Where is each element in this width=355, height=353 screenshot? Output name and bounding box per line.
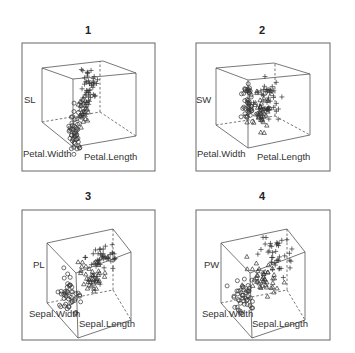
plus-marker bbox=[276, 107, 281, 112]
triangle-marker bbox=[76, 260, 80, 264]
plus-marker bbox=[258, 247, 263, 252]
plus-marker bbox=[255, 252, 260, 257]
plus-marker bbox=[102, 265, 107, 270]
plus-marker bbox=[264, 235, 269, 240]
plus-marker bbox=[284, 237, 289, 242]
plus-marker bbox=[266, 250, 271, 255]
plus-marker bbox=[80, 86, 85, 91]
circle-marker bbox=[72, 152, 76, 156]
panel-3-z-label: PL bbox=[33, 259, 45, 270]
triangle-marker bbox=[275, 286, 279, 290]
plus-marker bbox=[287, 251, 292, 256]
cube-edge bbox=[248, 74, 310, 80]
cube-hidden-edge bbox=[221, 290, 287, 303]
panel-3: PL Sepal.Width Sepal.Length bbox=[22, 210, 155, 340]
plus-marker bbox=[263, 242, 268, 247]
plus-marker bbox=[288, 265, 293, 270]
triangle-marker bbox=[80, 264, 84, 268]
panel-4-y-label: Sepal.Width bbox=[202, 308, 253, 319]
circle-marker bbox=[79, 300, 83, 304]
panel-1: SL Petal.Width Petal.Length bbox=[22, 43, 155, 171]
plus-marker bbox=[281, 275, 286, 280]
panel-2: SW Petal.Width Petal.Length bbox=[196, 43, 330, 171]
cube-edge bbox=[113, 229, 131, 252]
cube-hidden-edge bbox=[100, 112, 136, 136]
plus-marker bbox=[276, 117, 281, 122]
panel-2-y-label: Petal.Width bbox=[197, 148, 246, 159]
plus-marker bbox=[79, 67, 84, 72]
plus-marker bbox=[267, 90, 272, 95]
plus-marker bbox=[95, 77, 100, 82]
triangle-marker bbox=[81, 119, 85, 123]
plus-marker bbox=[279, 238, 284, 243]
scatter3d-grid: SL Petal.Width Petal.Length SW Petal.Wid… bbox=[0, 0, 355, 353]
triangle-marker bbox=[102, 274, 106, 278]
triangle-marker bbox=[251, 283, 255, 287]
cube-edge bbox=[42, 122, 73, 147]
cube-hidden-edge bbox=[287, 290, 305, 320]
plus-marker bbox=[274, 101, 279, 106]
panel-4: PW Sepal.Width Sepal.Length bbox=[196, 210, 330, 340]
circle-marker bbox=[66, 272, 70, 276]
cube-edge bbox=[248, 135, 310, 148]
plus-marker bbox=[269, 255, 274, 260]
plus-marker bbox=[80, 68, 85, 73]
circle-marker bbox=[62, 276, 66, 280]
triangle-marker bbox=[259, 130, 263, 134]
triangle-marker bbox=[245, 254, 249, 258]
plus-marker bbox=[110, 242, 115, 247]
plus-marker bbox=[93, 247, 98, 252]
plus-marker bbox=[273, 263, 278, 268]
panel-4-z-label: PW bbox=[204, 259, 219, 270]
plus-marker bbox=[110, 266, 115, 271]
plus-marker bbox=[91, 251, 96, 256]
plus-marker bbox=[268, 241, 273, 246]
triangle-marker bbox=[78, 107, 82, 111]
circle-marker bbox=[225, 284, 229, 288]
plus-marker bbox=[274, 80, 279, 85]
plus-marker bbox=[279, 94, 284, 99]
plus-marker bbox=[289, 246, 294, 251]
plus-marker bbox=[103, 244, 108, 249]
triangle-marker bbox=[245, 120, 249, 124]
triangle-marker bbox=[82, 282, 86, 286]
panel-1-y-label: Petal.Width bbox=[23, 148, 72, 159]
triangle-marker bbox=[282, 280, 286, 284]
cube-edge bbox=[47, 229, 113, 243]
cube-edge bbox=[42, 61, 103, 68]
plus-marker bbox=[270, 267, 275, 272]
plus-marker bbox=[274, 109, 279, 114]
cube-edge bbox=[47, 243, 76, 273]
cluster-versicolor bbox=[76, 255, 110, 293]
triangle-marker bbox=[86, 110, 90, 114]
triangle-marker bbox=[250, 267, 254, 271]
cube-edge bbox=[103, 61, 136, 73]
panel-4-x-label: Sepal.Length bbox=[252, 318, 308, 329]
cube-edge bbox=[274, 63, 310, 74]
cube-edge bbox=[287, 229, 305, 252]
plus-marker bbox=[83, 255, 88, 260]
panel-2-z-label: SW bbox=[196, 94, 211, 105]
cluster-virginica bbox=[251, 74, 284, 122]
triangle-marker bbox=[254, 261, 258, 265]
triangle-marker bbox=[80, 260, 84, 264]
plus-marker bbox=[288, 259, 293, 264]
panel-3-y-label: Sepal.Width bbox=[29, 308, 80, 319]
panel-3-x-label: Sepal.Length bbox=[79, 318, 135, 329]
plus-marker bbox=[273, 249, 278, 254]
cube-edge bbox=[216, 125, 248, 148]
cube-edge bbox=[216, 63, 274, 68]
panel-2-x-label: Petal.Length bbox=[257, 151, 310, 162]
circle-marker bbox=[239, 115, 243, 119]
triangle-marker bbox=[265, 294, 269, 298]
circle-marker bbox=[235, 279, 239, 283]
circle-marker bbox=[72, 110, 76, 114]
triangle-marker bbox=[103, 270, 107, 274]
cube-edge bbox=[42, 68, 73, 79]
triangle-marker bbox=[84, 264, 88, 268]
plus-marker bbox=[101, 247, 106, 252]
cube-hidden-edge bbox=[113, 290, 131, 320]
circle-marker bbox=[62, 266, 66, 270]
circle-marker bbox=[242, 277, 246, 281]
plus-marker bbox=[282, 253, 287, 258]
